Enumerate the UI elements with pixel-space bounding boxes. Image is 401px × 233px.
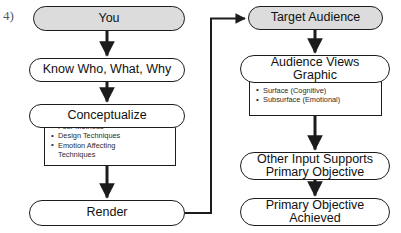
node-primary-objective-achieved-label: Primary Objective Achieved [241, 199, 389, 225]
node-target-audience[interactable]: Target Audience [248, 6, 383, 30]
list-item: Emotion Affecting Techniques [50, 141, 171, 160]
node-you[interactable]: You [33, 6, 185, 31]
list-item: Surface (Cognitive) [255, 86, 377, 95]
connector-render-to-target-audience [185, 19, 245, 214]
node-target-audience-label: Target Audience [249, 11, 382, 24]
audience-views-details-list: Surface (Cognitive) Subsurface (Emotiona… [255, 86, 377, 105]
node-conceptualize[interactable]: Conceptualize [29, 104, 185, 128]
node-other-input-supports-primary-objective-label: Other Input Supports Primary Objective [241, 153, 389, 179]
node-render[interactable]: Render [29, 200, 185, 226]
list-item: Subsurface (Emotional) [255, 95, 377, 104]
node-conceptualize-label: Conceptualize [30, 109, 184, 122]
node-primary-objective-achieved[interactable]: Primary Objective Achieved [240, 198, 390, 226]
node-render-label: Render [30, 206, 184, 219]
node-other-input-supports-primary-objective[interactable]: Other Input Supports Primary Objective [240, 152, 390, 180]
node-audience-views-graphic[interactable]: Audience Views Graphic [240, 55, 390, 83]
flowchart-diagram: 4) You Know Who, What, Why Four Methods [0, 0, 401, 233]
node-know-who-what-why[interactable]: Know Who, What, Why [29, 58, 185, 82]
node-audience-views-graphic-label: Audience Views Graphic [241, 56, 389, 82]
node-you-label: You [34, 12, 184, 25]
list-item: Design Techniques [50, 131, 171, 140]
node-know-who-what-why-label: Know Who, What, Why [30, 63, 184, 76]
